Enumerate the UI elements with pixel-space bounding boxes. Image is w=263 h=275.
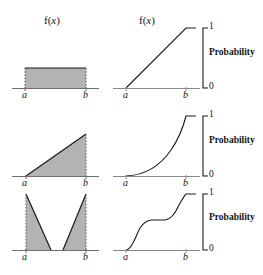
row2-probability-bracket (203, 116, 208, 176)
row2-density-label-b: b (83, 177, 88, 188)
row1-cdf-label-a: a (123, 89, 128, 100)
row3-cdf-label-a: a (123, 251, 128, 262)
row3-density-label-b: b (83, 251, 88, 262)
row2-probability-label: Probability (209, 135, 255, 145)
row2-cdf-plot (113, 116, 208, 179)
row3-density-label-a: a (22, 251, 27, 262)
row1-pdf-plot (12, 68, 99, 91)
row1-cdf-plot (113, 28, 208, 91)
row1-density-label-b: b (83, 89, 88, 100)
row1-density-label-a: a (22, 89, 27, 100)
row2-cdf-label-a: a (123, 177, 128, 188)
row3-y-label-one: 1 (209, 187, 214, 197)
row3-y-label-zero: 0 (209, 243, 214, 253)
row1-probability-bracket (203, 28, 208, 88)
probability-figure: f(x) f(x) (0, 0, 263, 275)
row3-probability-label: Probability (209, 212, 255, 222)
row2-y-label-zero: 0 (209, 169, 214, 179)
row1-density-area (25, 68, 86, 88)
row1-y-label-zero: 0 (209, 81, 214, 91)
row1-cdf-curve (126, 28, 196, 88)
row3-probability-bracket (203, 194, 208, 250)
row2-pdf-plot (12, 134, 99, 179)
row3-cdf-curve (126, 194, 196, 250)
row1-cdf-label-b: b (183, 89, 188, 100)
row3-cdf-plot (113, 194, 208, 253)
row3-pdf-plot (12, 194, 99, 253)
row1-y-label-one: 1 (209, 21, 214, 31)
row3-cdf-label-b: b (183, 251, 188, 262)
row2-density-label-a: a (22, 177, 27, 188)
row2-y-label-one: 1 (209, 109, 214, 119)
row1-probability-label: Probability (209, 47, 255, 57)
row2-cdf-label-b: b (183, 177, 188, 188)
row2-cdf-curve (126, 116, 196, 176)
